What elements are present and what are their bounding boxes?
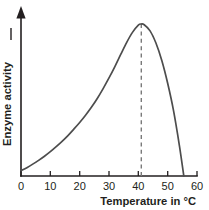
enzyme-activity-temperature-chart: 0 10 20 30 40 50 60 Enzyme activity Temp… [0,0,209,210]
x-tick-label: 50 [162,180,174,192]
x-tick-label: 30 [103,180,115,192]
x-axis-tick-labels: 0 10 20 30 40 50 60 [18,180,203,192]
y-axis-arrow-icon [16,6,25,19]
enzyme-activity-curve [21,24,184,176]
x-axis-title: Temperature in °C [100,195,196,207]
x-tick-label: 40 [132,180,144,192]
x-tick-label: 10 [44,180,56,192]
y-axis-title: Enzyme activity [1,61,13,146]
chart-canvas: 0 10 20 30 40 50 60 Enzyme activity Temp… [0,0,209,210]
y-axis-title-group: Enzyme activity [1,28,13,146]
x-tick-label: 0 [18,180,24,192]
x-tick-label: 20 [74,180,86,192]
y-axis [16,6,25,176]
x-tick-label: 60 [191,180,203,192]
